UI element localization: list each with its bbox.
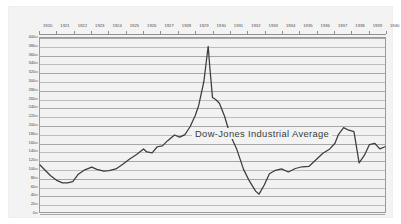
y-axis-tick <box>35 107 38 108</box>
x-axis-tick <box>334 31 335 34</box>
x-axis-tick <box>160 31 161 34</box>
x-axis-tick <box>143 31 144 34</box>
y-axis-tick <box>35 186 38 187</box>
y-axis-tick <box>35 37 38 38</box>
y-axis-tick <box>35 151 38 152</box>
x-axis-tick <box>299 31 300 34</box>
x-axis-tick <box>247 31 248 34</box>
x-axis-tick-label: 1940 <box>390 23 399 28</box>
x-axis-tick-label: 1927 <box>164 23 173 28</box>
x-axis-tick-label: 1939 <box>373 23 382 28</box>
x-axis-tick <box>56 31 57 34</box>
x-axis-tick-label: 1925 <box>130 23 139 28</box>
x-axis-tick <box>317 31 318 34</box>
x-axis-tick <box>126 31 127 34</box>
y-axis-tick <box>35 98 38 99</box>
x-axis-tick-label: 1932 <box>251 23 260 28</box>
x-axis-tick <box>74 31 75 34</box>
y-axis-tick <box>35 195 38 196</box>
y-axis-tick <box>35 89 38 90</box>
x-axis-tick-label: 1920 <box>43 23 52 28</box>
y-axis: 4003803603403203002802602402202001801601… <box>8 37 37 213</box>
x-axis-tick-label: 1921 <box>60 23 69 28</box>
x-axis-tick <box>369 31 370 34</box>
x-axis-tick <box>39 31 40 34</box>
x-axis-tick-label: 1929 <box>199 23 208 28</box>
x-axis-tick <box>213 31 214 34</box>
y-axis-tick <box>35 63 38 64</box>
x-axis-tick <box>230 31 231 34</box>
x-axis-tick-label: 1926 <box>147 23 156 28</box>
x-axis-tick-label: 1924 <box>112 23 121 28</box>
y-axis-tick <box>35 177 38 178</box>
y-axis-tick <box>35 72 38 73</box>
x-axis-tick-label: 1922 <box>78 23 87 28</box>
chart-screenshot: 4003803603403203002802602402202001801601… <box>0 0 401 224</box>
gridline <box>40 214 385 215</box>
x-axis-tick <box>386 31 387 34</box>
x-axis-tick <box>265 31 266 34</box>
x-axis-tick-label: 1935 <box>303 23 312 28</box>
x-axis-tick <box>195 31 196 34</box>
y-axis-tick <box>35 204 38 205</box>
y-axis-tick <box>35 116 38 117</box>
y-axis-tick <box>35 213 38 214</box>
series-line-dow-jones <box>40 38 385 212</box>
x-axis-tick <box>91 31 92 34</box>
y-axis-tick <box>35 142 38 143</box>
x-axis-tick-label: 1934 <box>286 23 295 28</box>
y-axis-tick <box>35 160 38 161</box>
x-axis-rule <box>39 34 386 35</box>
x-axis-tick-label: 1928 <box>182 23 191 28</box>
plot-area: Dow-Jones Industrial Average <box>39 37 386 213</box>
x-axis-tick <box>351 31 352 34</box>
y-axis-tick <box>35 81 38 82</box>
y-axis-tick <box>35 54 38 55</box>
y-axis-tick <box>35 133 38 134</box>
x-axis-tick <box>282 31 283 34</box>
x-axis-tick-label: 1931 <box>234 23 243 28</box>
x-axis-tick <box>108 31 109 34</box>
x-axis-tick-label: 1930 <box>217 23 226 28</box>
y-axis-tick <box>35 169 38 170</box>
x-axis-tick-label: 1933 <box>269 23 278 28</box>
x-axis-tick-label: 1923 <box>95 23 104 28</box>
x-axis-tick-label: 1938 <box>355 23 364 28</box>
x-axis-tick-label: 1937 <box>338 23 347 28</box>
chart-paper: 4003803603403203002802602402202001801601… <box>8 6 393 218</box>
y-axis-tick <box>35 125 38 126</box>
x-axis-tick-label: 1936 <box>321 23 330 28</box>
y-axis-tick <box>35 45 38 46</box>
x-axis-tick <box>178 31 179 34</box>
